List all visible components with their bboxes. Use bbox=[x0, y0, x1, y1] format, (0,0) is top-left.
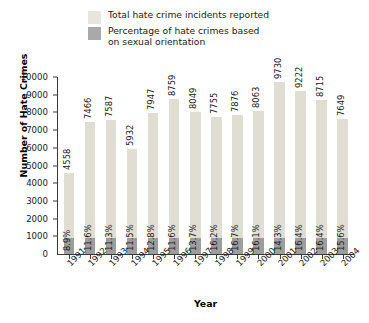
bar-value-label: 5932 bbox=[125, 125, 135, 146]
legend-label-total: Total hate crime incidents reported bbox=[108, 10, 269, 21]
y-axis-tick-label: 5000 bbox=[26, 161, 48, 171]
bar-percentage-label: 11.6% bbox=[168, 224, 178, 251]
bar-value-label: 7876 bbox=[231, 90, 241, 111]
bar-group: 806316.1% bbox=[248, 77, 269, 254]
bar-percentage-label: 16.4% bbox=[315, 224, 325, 251]
y-axis-ticks: 0100020003000400050006000700080009000100… bbox=[0, 70, 53, 262]
bar-group: 794712.8% bbox=[143, 77, 164, 254]
y-axis-tick-label: 0 bbox=[43, 249, 48, 259]
bar-group: 746611.6% bbox=[79, 77, 100, 254]
bar-percentage-label: 11.5% bbox=[125, 224, 135, 251]
bar-value-label: 8049 bbox=[189, 87, 199, 108]
y-axis-tick-label: 1000 bbox=[26, 231, 48, 241]
bar-percentage-label: 13.7% bbox=[189, 224, 199, 251]
bar-percentage-label: 14.3% bbox=[273, 224, 283, 251]
y-axis-tick-label: 9000 bbox=[26, 90, 48, 100]
bar-value-label: 7755 bbox=[210, 92, 220, 113]
bar-value-label: 9222 bbox=[294, 66, 304, 87]
legend-swatch-percentage-icon bbox=[88, 27, 101, 40]
y-axis-tick-label: 8000 bbox=[26, 107, 48, 117]
bar-value-label: 8715 bbox=[315, 75, 325, 96]
bar-percentage-label: 11.6% bbox=[83, 224, 93, 251]
legend-item-total: Total hate crime incidents reported bbox=[88, 10, 358, 24]
bar-percentage-label: 16.2% bbox=[210, 224, 220, 251]
bar-value-label: 7649 bbox=[336, 94, 346, 115]
bar-percentage-label: 16.4% bbox=[294, 224, 304, 251]
bar-group: 787616.7% bbox=[227, 77, 248, 254]
bar-series-container: 45588.9%746611.6%758711.3%593211.5%79471… bbox=[58, 77, 353, 254]
y-axis-tick-label: 6000 bbox=[26, 143, 48, 153]
bar-group: 804913.7% bbox=[185, 77, 206, 254]
bar-percentage-label: 12.8% bbox=[147, 224, 157, 251]
bar-value-label: 9730 bbox=[273, 57, 283, 78]
bar-value-label: 7466 bbox=[83, 98, 93, 119]
y-axis-tick-label: 4000 bbox=[26, 178, 48, 188]
chart-page: Total hate crime incidents reported Perc… bbox=[0, 0, 369, 323]
legend-swatch-total-icon bbox=[88, 11, 101, 24]
x-axis-title: Year bbox=[57, 298, 354, 309]
bar-group: 45588.9% bbox=[58, 77, 79, 254]
bar-percentage-label: 16.1% bbox=[252, 224, 262, 251]
y-axis-tick-label: 3000 bbox=[26, 196, 48, 206]
bar-group: 758711.3% bbox=[100, 77, 121, 254]
bar-percentage-label: 8.9% bbox=[62, 230, 72, 251]
bar-value-label: 8759 bbox=[168, 75, 178, 96]
bar-group: 871516.4% bbox=[311, 77, 332, 254]
bar-group: 775516.2% bbox=[206, 77, 227, 254]
bar-value-label: 8063 bbox=[252, 87, 262, 108]
y-axis-tick-label: 2000 bbox=[26, 214, 48, 224]
bar-group: 764915.6% bbox=[332, 77, 353, 254]
bar-percentage-label: 11.3% bbox=[104, 224, 114, 251]
chart-legend: Total hate crime incidents reported Perc… bbox=[88, 10, 358, 49]
bar-value-label: 4558 bbox=[62, 149, 72, 170]
bar-percentage-label: 15.6% bbox=[336, 224, 346, 251]
bar-group: 875911.6% bbox=[164, 77, 185, 254]
bar-group: 973014.3% bbox=[269, 77, 290, 254]
bar-value-label: 7587 bbox=[104, 95, 114, 116]
legend-item-percentage: Percentage of hate crimes based on sexua… bbox=[88, 26, 358, 47]
bar-group: 593211.5% bbox=[122, 77, 143, 254]
bar-percentage-label: 16.7% bbox=[231, 224, 241, 251]
y-axis-tick-label: 10000 bbox=[21, 72, 48, 82]
bar-value-label: 7947 bbox=[147, 89, 157, 110]
bar-group: 922216.4% bbox=[290, 77, 311, 254]
y-axis-tick-label: 7000 bbox=[26, 125, 48, 135]
legend-label-percentage: Percentage of hate crimes based on sexua… bbox=[108, 26, 259, 47]
